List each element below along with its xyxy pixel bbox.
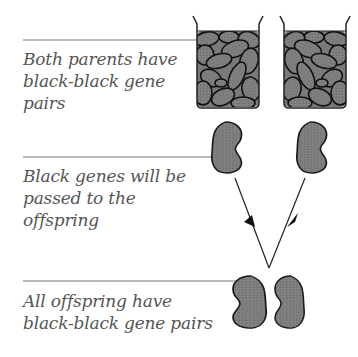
- offspring-seed-left: [233, 276, 266, 328]
- left-gene-seed: [212, 122, 242, 173]
- offspring-seeds: [233, 276, 304, 328]
- left-parent-beaker: [193, 16, 263, 109]
- parents-label: Both parents have black-black gene pairs: [23, 48, 177, 114]
- right-parent-beaker: [280, 16, 350, 109]
- right-gene-seed: [297, 122, 327, 173]
- genes-label: Black genes will be passed to the offspr…: [23, 165, 186, 231]
- offspring-label: All offspring have black-black gene pair…: [23, 290, 213, 334]
- offspring-seed-right: [275, 276, 304, 328]
- inheritance-arrows: [235, 178, 305, 268]
